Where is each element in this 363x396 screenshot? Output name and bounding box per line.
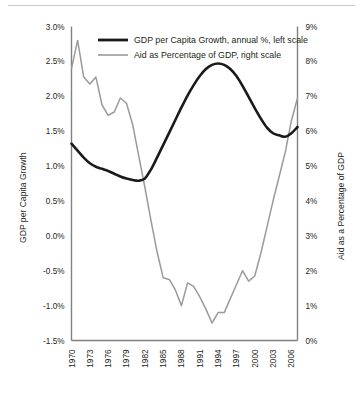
- x-tick-label: 1970: [68, 349, 77, 368]
- x-tick-label: 1988: [177, 349, 186, 368]
- x-tick-label: 1976: [104, 349, 113, 368]
- x-tick-label: 1991: [196, 349, 205, 368]
- series-line-gdp: [72, 63, 298, 180]
- right-tick-label: 4%: [306, 197, 318, 206]
- x-tick-label: 2003: [269, 349, 278, 368]
- top-divider: [8, 5, 355, 6]
- left-axis-title: GDP per Capita Growth: [18, 152, 28, 243]
- x-tick-label: 1985: [159, 349, 168, 368]
- left-tick-label: -1.0%: [43, 302, 64, 311]
- left-tick-label: 3.0%: [46, 23, 65, 32]
- x-tick-label: 1994: [214, 349, 223, 368]
- dual-axis-line-chart: GDP per Capita Growth Aid as a Percentag…: [0, 0, 363, 396]
- left-tick-label: 1.5%: [46, 127, 65, 136]
- x-tick-label: 1997: [232, 349, 241, 368]
- right-tick-label: 0%: [306, 337, 318, 346]
- x-tick-label: 2006: [287, 349, 296, 368]
- right-tick-label: 6%: [306, 127, 318, 136]
- right-tick-label: 8%: [306, 57, 318, 66]
- right-tick-label: 9%: [306, 23, 318, 32]
- x-axis-tick-labels: 1970197319761979198219851988199119941997…: [68, 349, 297, 368]
- x-tick-label: 1979: [122, 349, 131, 368]
- chart-figure: GDP per Capita Growth Aid as a Percentag…: [0, 0, 363, 396]
- left-tick-label: 2.5%: [46, 57, 65, 66]
- right-tick-label: 7%: [306, 92, 318, 101]
- x-tick-label: 1982: [141, 349, 150, 368]
- x-tick-label: 1973: [86, 349, 95, 368]
- right-tick-label: 5%: [306, 162, 318, 171]
- left-axis-tick-labels: -1.5%-1.0%-0.5%0.0%0.5%1.0%1.5%2.0%2.5%3…: [43, 23, 64, 346]
- left-tick-label: 2.0%: [46, 92, 65, 101]
- left-tick-label: 0.0%: [46, 232, 65, 241]
- series-line-aid: [72, 40, 298, 323]
- left-tick-label: -1.5%: [43, 337, 64, 346]
- chart-legend: GDP per Capita Growth, annual %, left sc…: [98, 35, 308, 60]
- right-tick-label: 2%: [306, 267, 318, 276]
- legend-label-gdp: GDP per Capita Growth, annual %, left sc…: [134, 35, 308, 45]
- x-tick-label: 2000: [251, 349, 260, 368]
- left-tick-label: 0.5%: [46, 197, 65, 206]
- right-axis-tick-labels: 0%1%2%3%4%5%6%7%8%9%: [306, 23, 318, 346]
- right-axis-title: Aid as a Percentage of GDP: [336, 152, 346, 260]
- right-tick-label: 3%: [306, 232, 318, 241]
- legend-label-aid: Aid as Percentage of GDP, right scale: [134, 50, 281, 60]
- left-tick-label: 1.0%: [46, 162, 65, 171]
- left-tick-label: -0.5%: [43, 267, 64, 276]
- right-tick-label: 1%: [306, 302, 318, 311]
